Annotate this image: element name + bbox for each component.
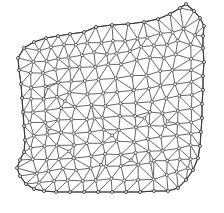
mesh-node (152, 44, 155, 47)
mesh-boundary-node (167, 190, 170, 193)
mesh-node (189, 132, 192, 135)
mesh-node (190, 80, 193, 83)
mesh-boundary-node (153, 190, 156, 193)
mesh-node (43, 145, 46, 148)
mesh-node (190, 121, 193, 124)
mesh-node (60, 107, 63, 110)
mesh-node (148, 111, 151, 114)
mesh-node (134, 126, 137, 129)
mesh-node (150, 100, 153, 103)
mesh-boundary-node (95, 26, 98, 29)
mesh-boundary-node (125, 191, 128, 194)
mesh-node (61, 167, 64, 170)
mesh-boundary-node (143, 21, 146, 24)
mesh-boundary-node (23, 125, 26, 128)
mesh-node (119, 114, 122, 117)
mesh-figure (0, 0, 224, 213)
mesh-edge (80, 67, 96, 68)
mesh-node (102, 92, 105, 95)
mesh-node (32, 60, 35, 63)
mesh-boundary-node (202, 35, 205, 38)
mesh-boundary-node (57, 35, 60, 38)
mesh-node (31, 158, 34, 161)
mesh-node (30, 86, 33, 89)
mesh-node (165, 173, 168, 176)
mesh-edge (149, 151, 163, 152)
mesh-node (115, 140, 118, 143)
mesh-boundary-node (69, 191, 72, 194)
mesh-node (100, 41, 103, 44)
mesh-node (134, 115, 137, 118)
mesh-boundary-node (157, 18, 160, 21)
mesh-node (148, 124, 151, 127)
mesh-node (149, 161, 152, 164)
mesh-node (159, 135, 162, 138)
mesh-node (133, 141, 136, 144)
mesh-node (88, 131, 91, 134)
mesh-boundary-node (200, 131, 203, 134)
mesh-node (72, 132, 75, 135)
mesh-node (143, 117, 146, 120)
mesh-diagram (0, 0, 224, 213)
mesh-edge (120, 103, 135, 104)
mesh-node (73, 144, 76, 147)
mesh-node (134, 151, 137, 154)
mesh-node (54, 68, 57, 71)
mesh-node (119, 153, 122, 156)
mesh-node (35, 172, 38, 175)
mesh-node (75, 169, 78, 172)
mesh-node (116, 90, 119, 93)
mesh-boundary-node (24, 139, 27, 142)
mesh-node (100, 163, 103, 166)
mesh-node (86, 93, 89, 96)
mesh-node (130, 74, 133, 77)
mesh-node (176, 39, 179, 42)
mesh-node (161, 149, 164, 152)
mesh-node (186, 167, 189, 170)
mesh-node (89, 167, 92, 170)
mesh-node (119, 63, 122, 66)
mesh-node (93, 117, 96, 120)
mesh-node (30, 97, 33, 100)
mesh-boundary-node (23, 151, 26, 154)
mesh-node (70, 80, 73, 83)
mesh-node (119, 102, 122, 105)
mesh-edge (154, 45, 167, 46)
mesh-node (177, 147, 180, 150)
mesh-boundary-node (23, 47, 26, 50)
mesh-node (159, 32, 162, 35)
mesh-node (175, 134, 178, 137)
mesh-node (46, 133, 49, 136)
mesh-node (57, 118, 60, 121)
mesh-boundary-node (185, 179, 188, 182)
mesh-node (47, 170, 50, 173)
mesh-boundary-node (33, 41, 36, 44)
mesh-node (178, 94, 181, 97)
mesh-node (56, 95, 59, 98)
mesh-boundary-node (202, 47, 205, 50)
mesh-node (29, 146, 32, 149)
mesh-node (117, 128, 120, 131)
mesh-node (119, 165, 122, 168)
mesh-node (145, 74, 148, 77)
mesh-node (101, 116, 104, 119)
mesh-node (104, 105, 107, 108)
mesh-node (159, 84, 162, 87)
mesh-node (162, 56, 165, 59)
mesh-boundary-node (45, 37, 48, 40)
mesh-boundary-node (97, 191, 100, 194)
mesh-node (130, 159, 133, 162)
mesh-node (165, 97, 168, 100)
mesh-node (57, 158, 60, 161)
mesh-boundary-node (199, 145, 202, 148)
mesh-node (37, 181, 40, 184)
mesh-node (147, 87, 150, 90)
mesh-boundary-node (201, 103, 204, 106)
mesh-node (174, 53, 177, 56)
mesh-node (101, 142, 104, 145)
mesh-boundary-node (193, 10, 196, 13)
mesh-boundary-node (202, 75, 205, 78)
mesh-node (70, 118, 73, 121)
mesh-node (47, 86, 50, 89)
mesh-node (147, 150, 150, 153)
